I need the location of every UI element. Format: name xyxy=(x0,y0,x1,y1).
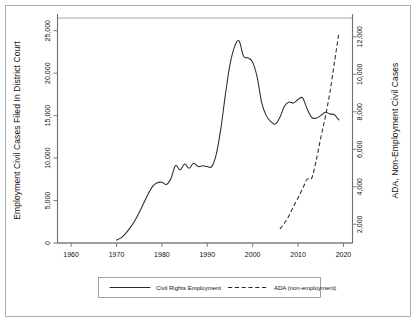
tick-label-left: 10,000 xyxy=(44,147,51,169)
tick-label-x: 1980 xyxy=(154,251,170,258)
tick-label-x: 2000 xyxy=(245,251,261,258)
chart-canvas: 05,00010,00015,00020,00025,000 2,0004,00… xyxy=(0,0,416,322)
tick-label-x: 1990 xyxy=(199,251,215,258)
tick-label-x: 1960 xyxy=(63,251,79,258)
tick-label-x: 2010 xyxy=(290,251,306,258)
tick-label-left: 15,000 xyxy=(44,105,51,127)
chart-figure: 05,00010,00015,00020,00025,000 2,0004,00… xyxy=(0,0,416,322)
tick-label-left: 5,000 xyxy=(44,192,51,210)
tick-label-x: 1970 xyxy=(109,251,125,258)
y-axis-label-right: ADA, Non-Employment Civil Cases xyxy=(390,63,400,199)
plot-area-border xyxy=(58,18,353,243)
y-axis-label-left: Employment Civil Cases Filed In District… xyxy=(12,41,22,220)
left-axis-ticks: 05,00010,00015,00020,00025,000 xyxy=(44,20,58,245)
tick-label-right: 6,000 xyxy=(356,140,363,158)
tick-label-left: 0 xyxy=(44,241,51,245)
tick-label-x: 2020 xyxy=(336,251,352,258)
tick-label-left: 25,000 xyxy=(44,20,51,42)
tick-label-left: 20,000 xyxy=(44,62,51,84)
legend-label-ada-non-employment: ADA (non-employment) xyxy=(274,285,336,291)
tick-label-right: 10,000 xyxy=(356,63,363,85)
tick-label-right: 12,000 xyxy=(356,26,363,48)
chart-legend: Civil Rights Employment ADA (non-employm… xyxy=(99,278,337,298)
right-axis-ticks: 2,0004,0006,0008,00010,00012,000 xyxy=(353,26,363,233)
x-axis-ticks: 1960197019801990200020102020 xyxy=(63,243,351,258)
tick-label-right: 2,000 xyxy=(356,215,363,233)
tick-label-right: 8,000 xyxy=(356,103,363,121)
legend-label-civil-rights-employment: Civil Rights Employment xyxy=(156,285,221,291)
tick-label-right: 4,000 xyxy=(356,178,363,196)
